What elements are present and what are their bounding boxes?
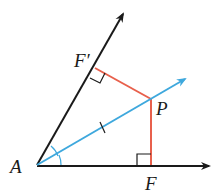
- label-a: A: [10, 157, 22, 176]
- ray-bisector: [37, 79, 185, 165]
- right-angle-mark-f: [137, 154, 151, 166]
- angle-arc-lower: [59, 155, 61, 165]
- diagram-canvas: A P F F′: [0, 0, 219, 194]
- label-f-prime: F′: [74, 51, 90, 70]
- right-angle-mark-f-prime: [90, 73, 105, 83]
- geometry-figure: [0, 0, 219, 194]
- ray-upper-side: [37, 14, 123, 165]
- label-p: P: [156, 99, 168, 118]
- segment-pf-prime: [95, 68, 151, 99]
- label-f: F: [145, 174, 157, 193]
